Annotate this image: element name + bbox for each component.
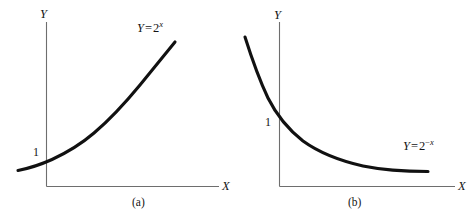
equation-lhs-a: Y bbox=[137, 21, 144, 35]
curve-exponential-growth-a bbox=[18, 42, 175, 171]
figure-container: Y X 1 Y=2x (a) Y X 1 Y=2−x bbox=[0, 0, 474, 220]
equation-operator-b: = bbox=[410, 139, 419, 153]
equation-exponent-var-a: x bbox=[159, 19, 163, 29]
equation-label-b: Y=2−x bbox=[403, 140, 434, 153]
y-intercept-tick-a: 1 bbox=[33, 146, 39, 158]
y-axis-label-a: Y bbox=[40, 8, 47, 21]
equation-lhs-b: Y bbox=[403, 139, 410, 153]
equation-label-a: Y=2x bbox=[137, 22, 163, 35]
equation-exponent-a: x bbox=[159, 19, 163, 29]
curve-exponential-decay-b bbox=[245, 37, 428, 172]
panel-caption-b: (b) bbox=[348, 196, 361, 208]
plot-a bbox=[0, 0, 237, 220]
y-intercept-tick-b: 1 bbox=[265, 116, 271, 128]
panel-b: Y X 1 Y=2−x (b) bbox=[237, 0, 474, 220]
panel-caption-a: (a) bbox=[132, 196, 145, 208]
x-axis-label-b: X bbox=[458, 180, 466, 193]
panel-a: Y X 1 Y=2x (a) bbox=[0, 0, 237, 220]
equation-exponent-b: −x bbox=[425, 137, 434, 147]
equation-operator-a: = bbox=[144, 21, 153, 35]
plot-b bbox=[237, 0, 474, 220]
y-axis-label-b: Y bbox=[274, 9, 281, 22]
x-axis-label-a: X bbox=[222, 180, 230, 193]
equation-exponent-var-b: x bbox=[430, 137, 434, 147]
